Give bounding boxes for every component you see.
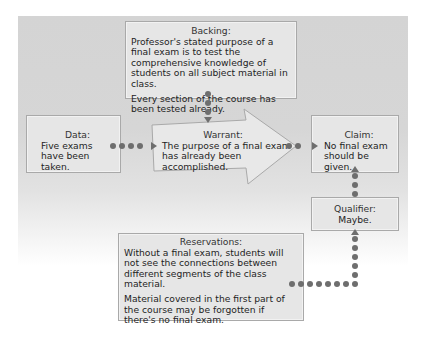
qualifier-box: Qualifier: Maybe. bbox=[311, 197, 399, 231]
reservations-box: Reservations: Without a final exam, stud… bbox=[118, 233, 304, 321]
arrowhead-right-icon bbox=[151, 142, 157, 150]
qualifier-text: Maybe. bbox=[316, 215, 394, 226]
claim-label: Claim: bbox=[324, 130, 394, 141]
data-box: Data: Five exams have been taken. bbox=[26, 115, 121, 173]
reservations-paragraph-1: Without a final exam, students will not … bbox=[124, 248, 298, 290]
claim-box: Claim: No final exam should be given. bbox=[311, 115, 399, 173]
qualifier-label: Qualifier: bbox=[316, 204, 394, 215]
arrowhead-down-icon bbox=[204, 117, 212, 123]
data-label: Data: bbox=[41, 130, 114, 141]
data-text: Five exams have been taken. bbox=[41, 141, 114, 173]
arrowhead-up-icon bbox=[351, 166, 359, 172]
arrowhead-right-icon bbox=[312, 142, 318, 150]
warrant-label: Warrant: bbox=[162, 130, 292, 141]
claim-text: No final exam should be given. bbox=[324, 141, 394, 173]
reservations-label: Reservations: bbox=[124, 237, 298, 248]
backing-label: Backing: bbox=[131, 26, 291, 37]
backing-paragraph-1: Professor's stated purpose of a final ex… bbox=[131, 37, 291, 90]
warrant-text: The purpose of a final exam has already … bbox=[162, 141, 292, 173]
warrant-box: Warrant: The purpose of a final exam has… bbox=[162, 130, 292, 172]
arrowhead-up-icon bbox=[351, 229, 359, 235]
backing-box: Backing: Professor's stated purpose of a… bbox=[125, 21, 297, 99]
reservations-paragraph-2: Material covered in the first part of th… bbox=[124, 294, 298, 326]
